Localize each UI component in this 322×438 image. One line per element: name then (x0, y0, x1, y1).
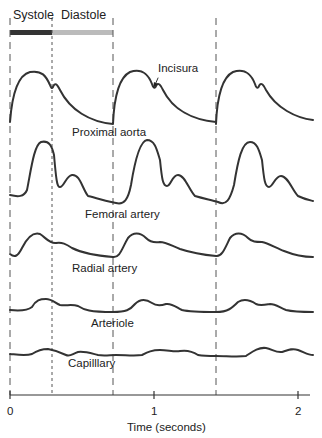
x-tick-2: 2 (295, 405, 301, 417)
x-tick-0: 0 (7, 405, 13, 417)
cycle-boundary-lines (10, 18, 216, 395)
systole-bar (10, 30, 52, 35)
femoral-artery-waveform (10, 140, 313, 203)
x-axis-title: Time (seconds) (127, 421, 206, 433)
radial-artery-waveform (10, 234, 313, 258)
radial-artery-label: Radial artery (72, 262, 137, 274)
capillary-waveform (10, 348, 313, 357)
capillary-label: Capilllary (68, 357, 115, 369)
femoral-artery-label: Femoral artery (85, 208, 160, 220)
proximal-aorta-label: Proximal aorta (72, 126, 146, 138)
incisura-label: Incisura (158, 62, 198, 74)
diastole-bar (52, 30, 113, 35)
arteriole-waveform (10, 299, 313, 312)
x-axis (10, 391, 310, 399)
x-tick-1: 1 (151, 405, 157, 417)
proximal-aorta-waveform (10, 71, 313, 124)
arteriole-label: Arteriole (91, 317, 134, 329)
systole-label: Systole (13, 8, 54, 22)
diastole-label: Diastole (61, 8, 106, 22)
